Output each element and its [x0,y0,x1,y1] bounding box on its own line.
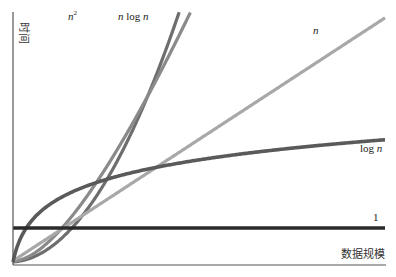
complexity-chart: 时间 数据规模 n2n log nnlog n1 [0,0,396,277]
curves-group [13,12,385,262]
label-n-squared: n2 [68,9,78,22]
series-line-n2 [13,12,179,262]
label-n: n [313,24,319,36]
label-n-log-n: n log n [118,10,149,22]
label-log-n: log n [360,142,383,154]
x-axis-label: 数据规模 [341,247,385,261]
series-line-nlogn [13,13,190,261]
series-line-logn [13,140,385,262]
series-line-n [13,18,385,261]
series-labels: n2n log nnlog n1 [68,9,383,223]
label-constant: 1 [373,211,379,223]
y-axis-label: 时间 [17,22,30,44]
